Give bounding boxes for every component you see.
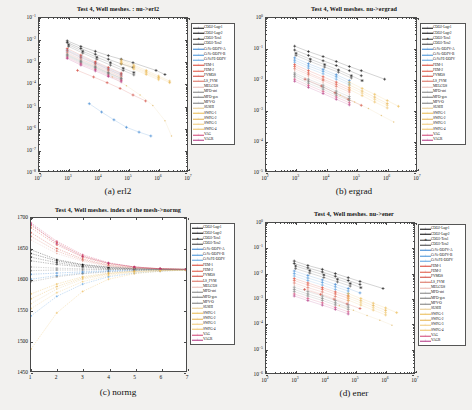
axis-tick-minor — [39, 96, 40, 97]
axis-tick-minor — [124, 18, 125, 19]
axis-tick-minor — [415, 19, 416, 20]
axis-tick-minor — [186, 78, 187, 79]
axis-tick-minor — [266, 154, 267, 155]
axis-tick-minor — [381, 372, 382, 373]
y-tick-label: 10−1 — [15, 14, 36, 21]
axis-tick-minor — [266, 19, 267, 20]
axis-tick-minor — [336, 18, 337, 19]
axis-tick-minor — [415, 96, 416, 97]
panel-b-plot-area — [266, 18, 416, 171]
axis-tick-minor — [413, 284, 414, 285]
axis-tick-minor — [266, 96, 267, 97]
axis-tick-minor — [173, 170, 174, 171]
axis-tick-minor — [413, 334, 414, 335]
y-tick-label: 1600 — [5, 276, 28, 282]
axis-tick-minor — [94, 170, 95, 171]
axis-tick-minor — [319, 372, 320, 373]
axis-tick-minor — [323, 372, 324, 373]
axis-tick-minor — [143, 170, 144, 171]
axis-tick-minor — [413, 305, 414, 306]
x-tick-label: 106 — [154, 174, 161, 181]
axis-tick-minor — [266, 89, 267, 90]
axis-tick-minor — [344, 223, 345, 224]
y-tick-label: 100 — [242, 219, 263, 226]
x-tick-label: 107 — [413, 174, 420, 181]
axis-tick-minor — [413, 249, 414, 250]
axis-tick-minor — [290, 18, 291, 19]
axis-tick — [412, 274, 414, 275]
axis-tick-minor — [48, 170, 49, 171]
axis-tick-minor — [306, 18, 307, 19]
x-tick-label: 3 — [81, 374, 84, 380]
axis-tick-minor — [305, 372, 306, 373]
axis-tick — [357, 169, 358, 171]
axis-tick-minor — [266, 225, 267, 226]
axis-tick — [39, 18, 41, 19]
axis-tick — [414, 18, 416, 19]
axis-tick — [31, 369, 32, 371]
axis-tick-minor — [39, 144, 40, 145]
axis-tick-minor — [124, 170, 125, 171]
axis-tick-minor — [39, 20, 40, 21]
axis-tick-minor — [275, 18, 276, 19]
panel-a-plot-area — [39, 18, 187, 171]
axis-tick-minor — [266, 229, 267, 230]
axis-tick-minor — [180, 18, 181, 19]
legend-label: VAGR — [431, 338, 440, 343]
axis-tick-minor — [415, 56, 416, 57]
axis-tick-minor — [415, 34, 416, 35]
axis-tick — [184, 218, 186, 219]
axis-tick-minor — [66, 170, 67, 171]
axis-tick-minor — [413, 367, 414, 368]
axis-tick-minor — [322, 170, 323, 171]
axis-tick-minor — [404, 372, 405, 373]
axis-tick-minor — [156, 18, 157, 19]
axis-tick-minor — [266, 120, 267, 121]
axis-tick — [412, 299, 414, 300]
axis-tick-minor — [39, 69, 40, 70]
axis-tick-minor — [186, 52, 187, 53]
axis-tick-minor — [186, 45, 187, 46]
axis-tick-minor — [168, 170, 169, 171]
axis-tick-minor — [281, 170, 282, 171]
axis-tick-minor — [186, 156, 187, 157]
axis-tick — [356, 223, 357, 225]
axis-tick-minor — [186, 23, 187, 24]
axis-tick-minor — [374, 372, 375, 373]
axis-tick-minor — [266, 287, 267, 288]
axis-tick-minor — [400, 223, 401, 224]
axis-tick — [39, 40, 41, 41]
axis-tick-minor — [39, 118, 40, 119]
axis-tick — [39, 62, 41, 63]
axis-tick-minor — [152, 18, 153, 19]
axis-tick-minor — [284, 18, 285, 19]
axis-tick-minor — [39, 122, 40, 123]
axis-tick-minor — [186, 47, 187, 48]
axis-tick-minor — [266, 143, 267, 144]
x-tick-label: 2 — [55, 374, 58, 380]
axis-tick — [189, 169, 190, 171]
axis-tick-minor — [266, 58, 267, 59]
axis-tick-minor — [366, 18, 367, 19]
axis-tick-minor — [413, 303, 414, 304]
axis-tick — [266, 274, 268, 275]
axis-tick-minor — [415, 112, 416, 113]
axis-tick-minor — [39, 45, 40, 46]
axis-tick-minor — [39, 100, 40, 101]
legend-entry: +VAGR — [422, 137, 464, 142]
axis-tick-minor — [407, 372, 408, 373]
axis-tick-minor — [291, 372, 292, 373]
axis-tick-minor — [289, 372, 290, 373]
axis-tick-minor — [143, 18, 144, 19]
panel-a-caption: (a) erl2 — [0, 186, 236, 196]
x-tick-label: 5 — [133, 374, 136, 380]
axis-tick-minor — [351, 223, 352, 224]
panel-b: Test 4, Well meshes. nu->ergrad 10210310… — [236, 0, 472, 205]
axis-tick-minor — [117, 170, 118, 171]
axis-tick-minor — [122, 170, 123, 171]
axis-tick-minor — [415, 40, 416, 41]
axis-tick-minor — [138, 170, 139, 171]
axis-tick-minor — [266, 81, 267, 82]
y-tick-label: 10−8 — [15, 169, 36, 176]
axis-tick-minor — [39, 66, 40, 67]
